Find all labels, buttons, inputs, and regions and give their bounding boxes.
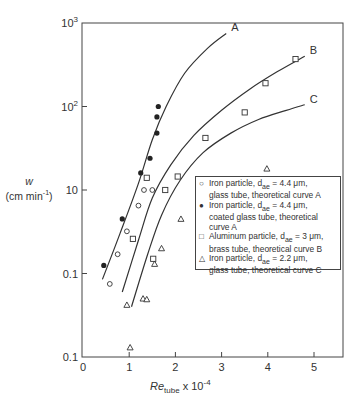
open-square-icon: □ [199,232,209,242]
legend-item-open-triangle: △ Iron particle, dae = 2.2 μm,glass tube… [199,254,337,276]
legend-item-filled-circle: ● Iron particle, dae = 4.4 μm,coated gla… [199,201,337,232]
legend-item-open-square: □ Aluminum particle, dae = 3 μm,brass tu… [199,232,337,254]
open-triangle-icon: △ [199,254,209,264]
svg-text:C: C [310,93,318,105]
svg-text:4: 4 [265,361,271,373]
x-axis-label: Retube x 10-4 [150,378,211,395]
svg-text:1: 1 [126,361,132,373]
svg-text:0: 0 [80,361,86,373]
svg-text:5: 5 [311,361,317,373]
svg-text:B: B [310,44,317,56]
svg-text:10: 10 [66,184,78,196]
svg-text:103: 103 [61,15,78,29]
legend: ○ Iron particle, dae = 4.4 μm,glass tube… [195,176,341,270]
y-axis-label: w (cm min-1) [0,175,58,202]
svg-text:3: 3 [219,361,225,373]
svg-text:102: 102 [61,99,78,113]
svg-text:0.1: 0.1 [63,351,78,363]
svg-text:A: A [231,21,239,33]
open-circle-icon: ○ [199,179,209,189]
filled-circle-icon: ● [199,201,209,211]
svg-text:0.1: 0.1 [63,268,78,280]
svg-text:2: 2 [172,361,178,373]
legend-item-open-circle: ○ Iron particle, dae = 4.4 μm,glass tube… [199,179,337,201]
